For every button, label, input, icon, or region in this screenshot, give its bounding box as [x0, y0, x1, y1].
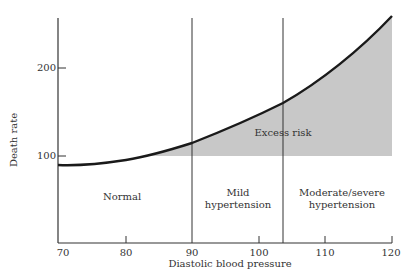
x-axis-title: Diastolic blood pressure — [168, 258, 291, 269]
x-tick-label-110: 110 — [315, 247, 334, 258]
y-tick-label-100: 100 — [37, 150, 56, 161]
y-axis-title: Death rate — [8, 113, 19, 167]
zone-label-moderate-1: Moderate/severe — [299, 187, 385, 198]
zone-label-moderate-2: hypertension — [309, 199, 375, 210]
excess-risk-label: Excess risk — [254, 127, 311, 138]
zone-label-mild-2: hypertension — [205, 199, 271, 210]
y-tick-label-200: 200 — [37, 62, 56, 73]
x-tick-label-120: 120 — [381, 247, 400, 258]
x-tick-label-70: 70 — [57, 247, 70, 258]
x-tick-label-80: 80 — [120, 247, 133, 258]
zone-label-normal: Normal — [103, 191, 141, 202]
x-tick-label-100: 100 — [249, 247, 268, 258]
x-tick-label-90: 90 — [186, 247, 199, 258]
chart-canvas — [0, 0, 417, 279]
zone-label-mild-1: Mild — [226, 187, 249, 198]
